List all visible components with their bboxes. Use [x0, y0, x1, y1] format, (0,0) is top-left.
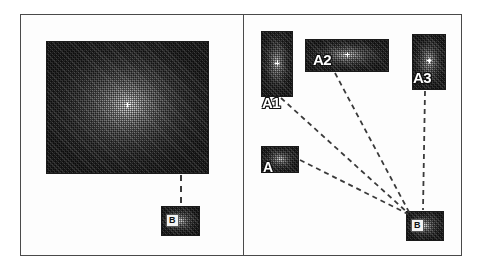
center-sparkle-icon: [125, 102, 130, 107]
right-tile-a1: [261, 31, 293, 97]
right-tile-label-a: A: [263, 160, 273, 174]
right-tile-label-a1: A1: [262, 95, 280, 110]
right-tile-label-a3: A3: [413, 70, 431, 85]
figure-canvas: B A1 A2 A3 A B: [0, 0, 479, 270]
center-sparkle-icon: [345, 52, 350, 57]
left-tile-label-b: B: [166, 214, 179, 227]
right-tile-label-a2: A2: [313, 52, 331, 67]
right-tile-label-b: B: [411, 219, 424, 232]
center-sparkle-icon: [427, 58, 432, 63]
left-main-image: [46, 41, 209, 174]
halftone-diagonal-overlay: [47, 42, 208, 173]
center-sparkle-icon: [275, 60, 280, 65]
